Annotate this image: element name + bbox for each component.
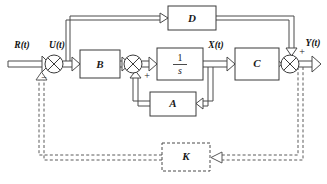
block-d-label: D: [187, 12, 196, 24]
wire-k-to-sum1: [36, 72, 162, 160]
sum3-sign-plus: +: [299, 46, 305, 57]
signal-label-y: Y(t): [306, 38, 321, 49]
block-integrator[interactable]: 1 s: [157, 48, 203, 80]
wire-sum2-to-integrator: [142, 57, 157, 71]
signal-label-x: X(t): [207, 40, 223, 51]
sum2-sign-plus: +: [144, 70, 150, 81]
summing-junction-1: [45, 55, 63, 73]
integrator-numerator: 1: [178, 52, 183, 63]
block-k-label: K: [181, 150, 190, 162]
signal-label-r: R(t): [13, 40, 29, 51]
block-b-label: B: [95, 58, 103, 70]
block-diagram-canvas: − + + B D 1 s C: [0, 0, 327, 184]
diagram-svg: − + + B D 1 s C: [0, 0, 327, 184]
signal-label-u: U(t): [49, 40, 65, 51]
block-a-label: A: [168, 97, 176, 109]
wire-y-branch-to-k: [211, 67, 303, 163]
wire-r-input: [8, 56, 50, 72]
block-a[interactable]: A: [150, 92, 196, 116]
summing-junction-3: [281, 55, 299, 73]
block-b[interactable]: B: [80, 50, 120, 78]
block-k[interactable]: K: [162, 143, 210, 171]
summing-junction-2: [124, 55, 142, 73]
integrator-denominator: s: [178, 65, 182, 76]
sum1-sign-minus: −: [41, 72, 47, 83]
block-c-label: C: [253, 57, 261, 69]
wire-sum3-to-y-output: [299, 56, 321, 72]
block-d[interactable]: D: [168, 6, 216, 30]
block-c[interactable]: C: [235, 48, 279, 80]
